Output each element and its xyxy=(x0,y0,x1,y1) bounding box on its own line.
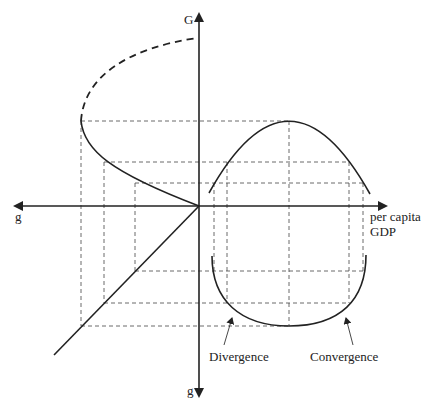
sideways-parabola-dashed xyxy=(81,38,197,121)
convergence-pointer xyxy=(346,318,353,345)
axis-label-g-down: g xyxy=(187,383,194,398)
sideways-parabola-solid xyxy=(81,121,199,206)
axis-label-g-left: g xyxy=(15,209,22,224)
convergence-label: Convergence xyxy=(310,349,379,364)
axis-label-G: G xyxy=(184,12,193,27)
divergence-label: Divergence xyxy=(209,349,269,364)
diagram-canvas: G g g per capita GDP Divergence Converge… xyxy=(0,0,433,410)
forty-five-degree-line xyxy=(54,206,199,355)
axis-label-gdp-line1: per capita xyxy=(370,209,421,224)
divergence-pointer xyxy=(224,318,232,345)
axis-label-gdp-line2: GDP xyxy=(370,224,396,239)
